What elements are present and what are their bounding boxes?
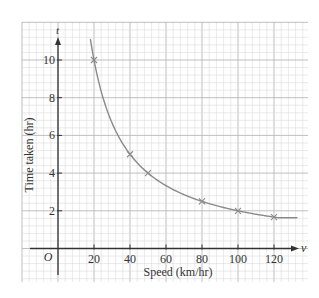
y-axis-label: Time taken (hr) [22, 118, 36, 193]
y-tick-label: 4 [49, 166, 55, 180]
origin-label: O [44, 250, 53, 264]
x-tick-label: 100 [229, 252, 247, 266]
axes [30, 37, 299, 275]
grid [22, 22, 308, 282]
x-axis-label: Speed (km/hr) [144, 265, 213, 279]
x-tick-label: 80 [196, 252, 208, 266]
chart: 20406080100120246810 Speed (km/hr) Time … [0, 0, 319, 298]
x-tick-label: 20 [88, 252, 100, 266]
y-tick-label: 10 [43, 53, 55, 67]
y-tick-label: 8 [49, 91, 55, 105]
x-tick-label: 120 [265, 252, 283, 266]
y-tick-label: 2 [49, 204, 55, 218]
x-axis-symbol: v [301, 241, 307, 255]
x-tick-label: 40 [124, 252, 136, 266]
data-curve [90, 39, 297, 218]
x-tick-label: 60 [160, 252, 172, 266]
y-tick-label: 6 [49, 128, 55, 142]
